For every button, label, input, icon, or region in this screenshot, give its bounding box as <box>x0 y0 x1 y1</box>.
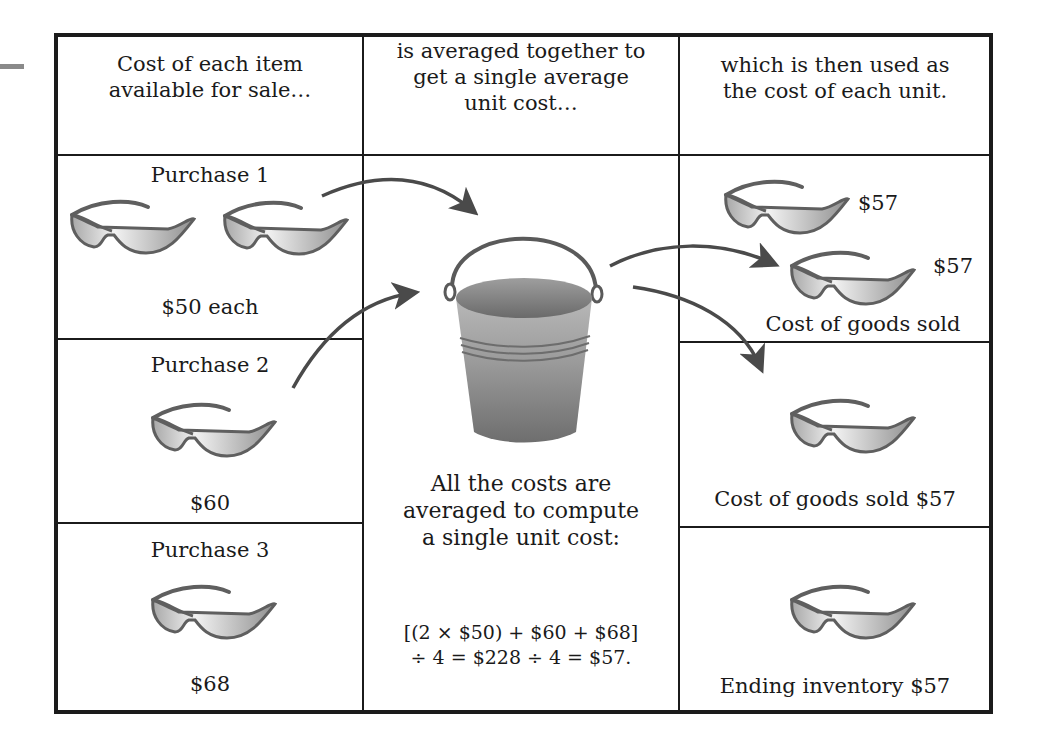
cogs-single-label: Cost of goods sold $57 <box>680 486 990 512</box>
header-col1-line1: Cost of each item <box>58 51 362 77</box>
explanation-line2: averaged to compute <box>364 497 678 524</box>
explanation-line1: All the costs are <box>364 470 678 497</box>
cogs-unit-price-2: $57 <box>933 253 983 279</box>
purchase-3-label: Purchase 3 <box>58 537 362 563</box>
header-col2: is averaged together to get a single ave… <box>364 38 678 116</box>
explanation-line3: a single unit cost: <box>364 524 678 551</box>
sunglasses-icon <box>149 400 277 466</box>
purchase-2-price: $60 <box>58 490 362 516</box>
purchase-3-price: $68 <box>58 671 362 697</box>
sunglasses-icon <box>788 396 916 462</box>
average-cost-formula: [(2 × $50) + $60 + $68] ÷ 4 = $228 ÷ 4 =… <box>364 620 678 670</box>
header-col2-line1: is averaged together to <box>364 38 678 64</box>
left-row-divider-1 <box>54 338 363 340</box>
column-divider-1 <box>362 33 364 714</box>
purchase-1-price: $50 each <box>58 294 362 320</box>
bucket-icon <box>440 214 610 449</box>
right-row-divider-2 <box>679 526 993 528</box>
header-col3-line1: which is then used as <box>680 52 990 78</box>
cogs-unit-price-1: $57 <box>858 190 908 216</box>
purchase-1-label: Purchase 1 <box>58 162 362 188</box>
column-divider-2 <box>678 33 680 714</box>
sunglasses-icon <box>788 248 916 314</box>
header-col2-line3: unit cost… <box>364 90 678 116</box>
sunglasses-icon <box>68 197 196 263</box>
formula-line2: ÷ 4 = $228 ÷ 4 = $57. <box>364 645 678 670</box>
header-col2-line2: get a single average <box>364 64 678 90</box>
averaging-explanation: All the costs are averaged to compute a … <box>364 470 678 551</box>
sunglasses-icon <box>722 177 850 243</box>
sunglasses-icon <box>788 582 916 648</box>
header-col1-line2: available for sale… <box>58 77 362 103</box>
header-col3-line2: the cost of each unit. <box>680 78 990 104</box>
header-col1: Cost of each item available for sale… <box>58 51 362 103</box>
cogs-group-label: Cost of goods sold <box>738 311 988 337</box>
purchase-2-label: Purchase 2 <box>58 352 362 378</box>
sunglasses-icon <box>221 198 349 264</box>
stray-mark <box>0 64 24 69</box>
sunglasses-icon <box>149 582 277 648</box>
left-row-divider-2 <box>54 522 363 524</box>
header-col3: which is then used as the cost of each u… <box>680 52 990 104</box>
formula-line1: [(2 × $50) + $60 + $68] <box>364 620 678 645</box>
ending-inventory-label: Ending inventory $57 <box>680 673 990 699</box>
header-divider <box>54 154 993 156</box>
right-row-divider-1 <box>679 341 993 343</box>
